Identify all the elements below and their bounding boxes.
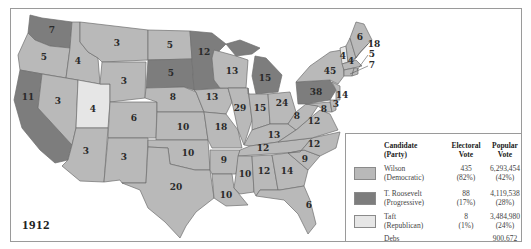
- electoral-count: –: [446, 238, 486, 242]
- electoral-count: 435: [446, 164, 486, 173]
- ev-label: 38: [310, 87, 323, 97]
- legend-swatch-progressive: [354, 192, 376, 205]
- legend-popular: 3,484,980(24%): [484, 212, 522, 230]
- legend-header-electoral: Electoral Vote: [446, 141, 486, 159]
- ev-label: 15: [254, 103, 267, 113]
- ev-label: 3: [121, 76, 127, 86]
- candidate-party: (Progressive): [384, 198, 424, 207]
- legend-row-debs: Debs(Socialist) – 900,672(6%): [346, 234, 521, 242]
- ev-label: 3: [114, 38, 120, 48]
- popular-count: 4,119,538: [484, 189, 522, 198]
- electoral-pct: (82%): [446, 173, 486, 182]
- ev-label: 13: [268, 130, 281, 140]
- legend: Candidate (Party) Electoral Vote Popular…: [345, 133, 522, 242]
- electoral-count: 8: [446, 212, 486, 221]
- ev-label: 29: [234, 103, 247, 113]
- ev-label: 4: [348, 56, 354, 66]
- ev-label: 3: [55, 96, 61, 106]
- candidate-name: T. Roosevelt: [384, 189, 424, 198]
- ev-label: 45: [324, 66, 337, 76]
- header-line: Candidate: [384, 141, 417, 150]
- ev-label: 5: [168, 68, 174, 78]
- legend-candidate: T. Roosevelt(Progressive): [384, 189, 424, 207]
- state-florida: [256, 186, 316, 234]
- ev-label: 3: [83, 146, 89, 156]
- header-line: Electoral: [446, 141, 486, 150]
- ev-label: 5: [167, 40, 173, 50]
- ev-label: 4: [90, 104, 96, 114]
- ev-label: 3: [121, 152, 127, 162]
- ev-label: 8: [294, 111, 300, 121]
- popular-pct: (24%): [484, 221, 522, 230]
- map-year-label: 1912: [22, 217, 50, 233]
- popular-count: 6,293,454: [484, 164, 522, 173]
- legend-electoral: –: [446, 238, 486, 242]
- header-line: Vote: [484, 150, 522, 159]
- ev-label: 18: [368, 39, 381, 49]
- ev-label: 12: [258, 166, 271, 176]
- ev-label: 24: [276, 98, 289, 108]
- ev-label: 18: [215, 122, 228, 132]
- popular-count: 900,672: [484, 234, 522, 242]
- ev-label: 6: [306, 200, 312, 210]
- electoral-pct: (17%): [446, 198, 486, 207]
- legend-row-wilson: Wilson(Democratic) 435(82%) 6,293,454(42…: [346, 164, 521, 188]
- ev-label: 20: [170, 182, 183, 192]
- ev-label: 10: [177, 122, 190, 132]
- ev-label: 7: [49, 25, 55, 35]
- ev-label: 11: [22, 92, 35, 102]
- electoral-count: 88: [446, 189, 486, 198]
- legend-row-taft: Taft(Republican) 8(1%) 3,484,980(24%): [346, 212, 521, 236]
- candidate-party: (Republican): [384, 221, 423, 230]
- legend-candidate: Debs(Socialist): [384, 234, 415, 242]
- legend-popular: 900,672(6%): [484, 234, 522, 242]
- legend-electoral: 88(17%): [446, 189, 486, 207]
- legend-popular: 6,293,454(42%): [484, 164, 522, 182]
- ev-label: 4: [75, 56, 81, 66]
- state-michigan-up: [226, 40, 260, 56]
- legend-electoral: 8(1%): [446, 212, 486, 230]
- candidate-name: Wilson: [384, 164, 424, 173]
- ev-label: 8: [321, 104, 327, 114]
- popular-pct: (28%): [484, 198, 522, 207]
- candidate-party: (Democratic): [384, 173, 424, 182]
- legend-header-candidate: Candidate (Party): [384, 141, 417, 159]
- ev-label: 10: [182, 148, 195, 158]
- ev-label: 10: [220, 190, 233, 200]
- candidate-name: Debs: [384, 234, 415, 242]
- ev-label: 4: [340, 51, 346, 61]
- ev-label: 12: [308, 116, 321, 126]
- ev-label: 9: [221, 155, 227, 165]
- ev-label: 14: [336, 90, 349, 100]
- ev-label: 7: [369, 60, 375, 70]
- header-line: (Party): [384, 150, 417, 159]
- popular-count: 3,484,980: [484, 212, 522, 221]
- ev-label: 15: [259, 73, 272, 83]
- legend-popular: 4,119,538(28%): [484, 189, 522, 207]
- legend-candidate: Wilson(Democratic): [384, 164, 424, 182]
- legend-candidate: Taft(Republican): [384, 212, 423, 230]
- legend-swatch-republican: [354, 215, 376, 228]
- ev-label: 14: [281, 166, 294, 176]
- state-new-york: [296, 50, 344, 84]
- ev-label: 12: [257, 143, 270, 153]
- legend-electoral: 435(82%): [446, 164, 486, 182]
- ev-label: 13: [226, 66, 239, 76]
- ev-label: 3: [333, 99, 339, 109]
- ev-label: 10: [239, 169, 252, 179]
- ev-label: 12: [198, 47, 211, 57]
- electoral-pct: (1%): [446, 221, 486, 230]
- header-line: Popular: [484, 141, 522, 150]
- legend-swatch-democratic: [354, 167, 376, 180]
- ev-label: 12: [308, 139, 321, 149]
- candidate-name: Taft: [384, 212, 423, 221]
- ev-label: 6: [131, 113, 137, 123]
- ev-label: 8: [170, 92, 176, 102]
- ev-label: 6: [357, 32, 363, 42]
- popular-pct: (42%): [484, 173, 522, 182]
- legend-row-roosevelt: T. Roosevelt(Progressive) 88(17%) 4,119,…: [346, 189, 521, 213]
- header-line: Vote: [446, 150, 486, 159]
- ev-label: 5: [41, 52, 47, 62]
- legend-header-popular: Popular Vote: [484, 141, 522, 159]
- ev-label: 5: [369, 49, 375, 59]
